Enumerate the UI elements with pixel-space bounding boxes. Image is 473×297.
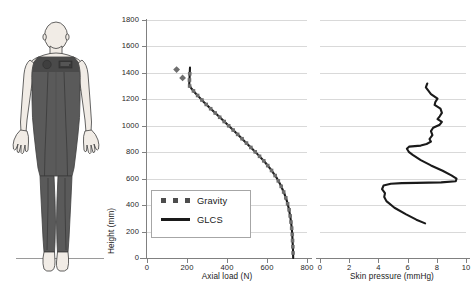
axial-load-series-layer: [0, 0, 320, 297]
gravity-dot: [236, 133, 240, 137]
gravity-dot: [288, 214, 292, 218]
skin-x-axis-title: Skin pressure (mmHg): [342, 272, 442, 281]
gravity-marker: [179, 75, 186, 82]
series-skin-pressure-line: [382, 83, 456, 223]
legend-entry-gravity[interactable]: Gravity: [152, 191, 250, 210]
gravity-dot: [279, 185, 283, 189]
gravity-dot: [240, 137, 244, 141]
gravity-dot: [266, 164, 270, 168]
gravity-dot: [270, 169, 274, 173]
gravity-dot: [188, 72, 192, 76]
gravity-dot: [282, 190, 286, 194]
gravity-dot: [258, 155, 262, 159]
gravity-dot: [209, 107, 213, 111]
gravity-dot: [290, 226, 294, 230]
gravity-dot: [277, 179, 281, 183]
gravity-dot: [227, 124, 231, 128]
gravity-dot: [253, 150, 257, 154]
gravity-dot: [289, 220, 293, 224]
skin-pressure-series-layer: [312, 0, 473, 297]
gravity-dot: [245, 141, 249, 145]
gravity-dot: [204, 103, 208, 107]
chart-legend[interactable]: Gravity GLCS: [151, 190, 251, 238]
gravity-dot: [213, 111, 217, 115]
gravity-dot: [218, 115, 222, 119]
gravity-dot: [196, 94, 200, 98]
legend-key-gravity-dots: [161, 196, 190, 206]
figure-composite: Height (mm) 0200400600800100012001400160…: [0, 0, 473, 297]
legend-label-glcs: GLCS: [197, 215, 223, 225]
gravity-dot: [249, 146, 253, 150]
gravity-dot: [231, 128, 235, 132]
gravity-dot: [262, 159, 266, 163]
gravity-dot: [273, 174, 277, 178]
gravity-marker: [173, 66, 180, 73]
legend-entry-glcs[interactable]: GLCS: [152, 210, 250, 229]
gravity-dot: [188, 84, 192, 88]
legend-label-gravity: Gravity: [197, 196, 227, 206]
gravity-dot: [291, 251, 295, 255]
gravity-dot: [287, 208, 291, 212]
gravity-dot: [188, 78, 192, 82]
gravity-dot: [290, 233, 294, 237]
gravity-dot: [291, 245, 295, 249]
gravity-dot: [291, 239, 295, 243]
gravity-dot: [192, 89, 196, 93]
series-gravity-markers: [173, 66, 186, 81]
gravity-dot: [200, 98, 204, 102]
gravity-dot: [284, 196, 288, 200]
legend-key-glcs-line: [161, 215, 190, 225]
axial-x-axis-title: Axial load (N): [177, 272, 277, 281]
gravity-dot: [222, 120, 226, 124]
axial-load-chart: Height (mm) 0200400600800100012001400160…: [0, 0, 320, 297]
skin-pressure-chart: 0246810 Skin pressure (mmHg): [312, 0, 473, 297]
gravity-dot: [286, 202, 290, 206]
